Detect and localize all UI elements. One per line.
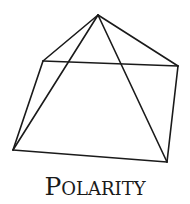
diagram-caption: POLARITY	[0, 174, 190, 202]
edge-apex-back-left	[43, 15, 98, 61]
edge-left	[13, 61, 43, 150]
edge-front	[13, 150, 167, 162]
caption-initial: P	[44, 172, 61, 201]
edge-right	[167, 66, 178, 162]
edge-apex-front-left	[13, 15, 98, 150]
edge-back	[43, 61, 178, 66]
caption-rest: OLARITY	[61, 178, 145, 199]
